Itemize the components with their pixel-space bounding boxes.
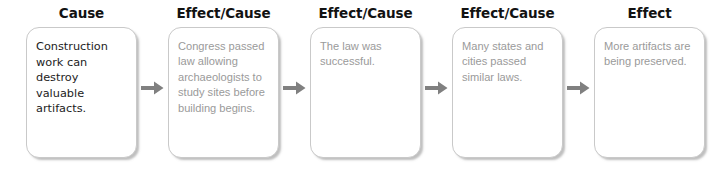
stage-5: Effect More artifacts are being preserve… (581, 0, 714, 175)
stage-2-box[interactable]: Congress passed law allowing archaeologi… (168, 27, 279, 158)
arrow-right-icon-2 (283, 81, 306, 95)
stage-4: Effect/Cause Many states and cities pass… (439, 0, 576, 175)
arrow-right-icon-1 (141, 81, 164, 95)
stage-2-text: Congress passed law allowing archaeologi… (178, 39, 270, 116)
stage-4-header: Effect/Cause (460, 0, 554, 26)
stage-5-text: More artifacts are being preserved. (604, 39, 696, 70)
stage-3-text: The law was successful. (320, 39, 412, 70)
stage-3: Effect/Cause The law was successful. (297, 0, 434, 175)
arrow-right-icon-4 (567, 81, 590, 95)
stage-2-header: Effect/Cause (176, 0, 270, 26)
stage-4-box[interactable]: Many states and cities passed similar la… (452, 27, 563, 158)
connector-3 (434, 0, 439, 175)
stage-3-box[interactable]: The law was successful. (310, 27, 421, 158)
stage-2: Effect/Cause Congress passed law allowin… (155, 0, 292, 175)
arrow-right-icon-3 (425, 81, 448, 95)
stage-1-text: Construction work can destroy valuable a… (36, 39, 128, 117)
stage-3-header: Effect/Cause (318, 0, 412, 26)
connector-2 (292, 0, 297, 175)
connector-1 (150, 0, 155, 175)
stage-5-header: Effect (628, 0, 672, 26)
connector-4 (576, 0, 581, 175)
stage-1-box[interactable]: Construction work can destroy valuable a… (26, 27, 137, 158)
stage-4-text: Many states and cities passed similar la… (462, 39, 554, 85)
stage-5-box[interactable]: More artifacts are being preserved. (594, 27, 705, 158)
stage-1-header: Cause (59, 0, 104, 26)
stage-1: Cause Construction work can destroy valu… (13, 0, 150, 175)
